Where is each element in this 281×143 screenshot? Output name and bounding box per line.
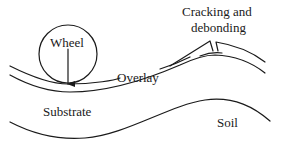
substrate-label: Substrate — [43, 104, 92, 119]
overlay-cracking-diagram: Wheel Overlay Cracking and debonding Sub… — [0, 0, 281, 143]
substrate-soil: Substrate Soil — [10, 99, 270, 138]
overlay-top-left-edge — [10, 66, 120, 84]
cracking-label-line1: Cracking and — [182, 4, 252, 19]
cracking-label-line2: debonding — [191, 20, 246, 35]
wheel-label: Wheel — [50, 35, 84, 50]
overlay-layer: Overlay — [10, 41, 265, 92]
soil-label: Soil — [217, 115, 238, 130]
crack-annotation: Cracking and debonding — [182, 4, 252, 35]
overlay-label: Overlay — [117, 70, 159, 85]
wheel: Wheel — [39, 25, 97, 84]
